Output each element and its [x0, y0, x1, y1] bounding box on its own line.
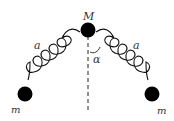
right-spring [96, 29, 149, 80]
right-spring-label: a [133, 39, 140, 52]
left-spring [27, 29, 80, 80]
top-mass [81, 23, 96, 38]
left-spring-label: a [34, 39, 41, 52]
left-mass-label: m [11, 104, 20, 115]
angle-label: α [93, 53, 101, 66]
right-mass [145, 87, 160, 102]
angle-arc [90, 47, 100, 53]
top-mass-label: M [82, 10, 95, 23]
right-mass-label: m [157, 105, 166, 116]
spring-mass-diagram: α M a a m m [0, 0, 174, 121]
left-mass [18, 87, 33, 102]
